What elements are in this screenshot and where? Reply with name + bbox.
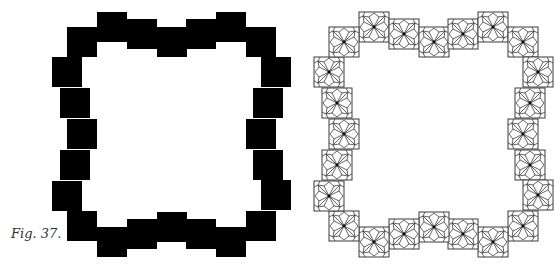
solid-tile bbox=[253, 150, 283, 180]
solid-tile bbox=[157, 27, 187, 57]
solid-tile bbox=[127, 19, 157, 49]
solid-tile bbox=[97, 12, 127, 42]
solid-tile bbox=[261, 57, 291, 87]
patterned-tile bbox=[523, 180, 553, 210]
solid-tile bbox=[127, 219, 157, 249]
patterned-tile bbox=[478, 12, 508, 42]
solid-tile bbox=[157, 212, 187, 242]
solid-tile bbox=[52, 57, 82, 87]
solid-tile bbox=[216, 227, 246, 257]
solid-square-frame bbox=[52, 12, 291, 257]
patterned-tile bbox=[389, 19, 419, 49]
patterned-tile bbox=[329, 211, 359, 241]
patterned-tile bbox=[419, 212, 449, 242]
solid-tile bbox=[186, 219, 216, 249]
patterned-tile bbox=[329, 119, 359, 149]
solid-tile bbox=[216, 12, 246, 42]
patterned-tile bbox=[523, 57, 553, 87]
figure-caption: Fig. 37. bbox=[11, 226, 61, 241]
patterned-tile bbox=[515, 88, 545, 118]
patterned-tile bbox=[359, 12, 389, 42]
solid-tile bbox=[186, 19, 216, 49]
solid-tile bbox=[246, 211, 276, 241]
solid-tile bbox=[60, 150, 90, 180]
patterned-tile bbox=[389, 219, 419, 249]
solid-tile bbox=[60, 88, 90, 118]
patterned-tile bbox=[322, 150, 352, 180]
solid-tile bbox=[52, 181, 82, 211]
patterned-tile bbox=[478, 227, 508, 257]
solid-tile bbox=[67, 119, 97, 149]
patterned-tile bbox=[508, 211, 538, 241]
solid-tile bbox=[67, 27, 97, 57]
solid-tile bbox=[261, 180, 291, 210]
patterned-tile bbox=[419, 27, 449, 57]
patterned-tile bbox=[359, 227, 389, 257]
solid-tile bbox=[246, 119, 276, 149]
solid-tile bbox=[67, 211, 97, 241]
patterned-tile bbox=[508, 119, 538, 149]
patterned-tile bbox=[508, 27, 538, 57]
patterned-tile bbox=[448, 219, 478, 249]
solid-tile bbox=[97, 227, 127, 257]
solid-tile bbox=[253, 88, 283, 118]
patterned-tile bbox=[515, 150, 545, 180]
solid-tile bbox=[246, 27, 276, 57]
patterned-tile bbox=[322, 88, 352, 118]
patterned-tile bbox=[314, 181, 344, 211]
figure-canvas bbox=[0, 0, 555, 270]
patterned-square-frame bbox=[314, 12, 553, 257]
patterned-tile bbox=[448, 19, 478, 49]
patterned-tile bbox=[314, 57, 344, 87]
patterned-tile bbox=[329, 27, 359, 57]
